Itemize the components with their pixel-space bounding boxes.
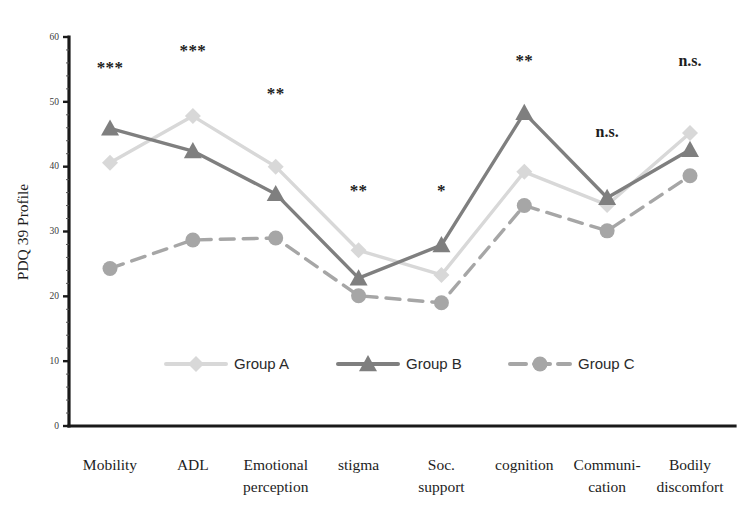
legend-item-group-b[interactable]: Group B [338, 355, 462, 372]
data-point-circle [683, 168, 698, 183]
significance-label: *** [97, 58, 124, 77]
significance-label: *** [180, 41, 207, 60]
y-tick-label: 0 [54, 421, 59, 431]
pdq39-line-chart: 0102030405060 PDQ 39 Profile ***********… [0, 0, 747, 513]
category-labels: MobilityADLEmotionalperceptionstigmaSoc.… [83, 456, 724, 495]
x-category-label: Bodily [669, 456, 711, 473]
series-group-c [103, 168, 698, 310]
data-point-triangle [515, 104, 533, 120]
x-category-label: cation [588, 478, 626, 495]
y-tick-label: 10 [50, 356, 60, 366]
legend-item-group-c[interactable]: Group C [510, 355, 635, 372]
y-axis-ticks: 0102030405060 [50, 32, 70, 431]
legend-label: Group A [234, 355, 289, 372]
legend-label: Group B [406, 355, 462, 372]
data-point-circle [351, 288, 366, 303]
significance-label: ** [515, 51, 533, 70]
data-point-diamond [188, 356, 204, 372]
x-category-label: Communi- [574, 456, 641, 473]
significance-label: * [437, 181, 446, 200]
axes [69, 37, 735, 426]
data-point-triangle [432, 236, 450, 252]
x-category-label: cognition [495, 456, 554, 473]
data-point-circle [600, 223, 615, 238]
significance-label: n.s. [596, 123, 619, 140]
data-point-triangle [681, 141, 699, 157]
chart-page: 0102030405060 PDQ 39 Profile ***********… [0, 0, 747, 513]
y-tick-label: 50 [50, 97, 60, 107]
y-tick-label: 40 [50, 161, 60, 171]
legend-label: Group C [578, 355, 635, 372]
data-point-diamond [102, 155, 118, 171]
data-point-triangle [267, 185, 285, 201]
legend-item-group-a[interactable]: Group A [166, 355, 289, 372]
y-tick-label: 30 [50, 226, 60, 236]
data-point-triangle [101, 119, 119, 135]
data-point-circle [268, 230, 283, 245]
x-category-label: ADL [177, 456, 209, 473]
x-category-label: support [418, 478, 465, 495]
x-category-label: Mobility [83, 456, 138, 473]
x-category-label: perception [243, 478, 309, 495]
significance-label: n.s. [678, 52, 701, 69]
y-tick-label: 60 [50, 32, 60, 42]
data-point-circle [103, 261, 118, 276]
x-category-label: Soc. [428, 456, 455, 473]
x-category-label: Emotional [243, 456, 308, 473]
data-point-circle [434, 295, 449, 310]
data-point-circle [185, 232, 200, 247]
y-axis-title: PDQ 39 Profile [14, 184, 31, 281]
significance-label: ** [350, 181, 368, 200]
chart-legend: Group AGroup BGroup C [166, 355, 635, 372]
significance-label: ** [267, 84, 285, 103]
data-point-circle [517, 198, 532, 213]
y-tick-label: 20 [50, 291, 60, 301]
data-point-circle [533, 357, 548, 372]
x-category-label: stigma [338, 456, 379, 473]
x-category-label: discomfort [656, 478, 724, 495]
data-point-diamond [185, 108, 201, 124]
